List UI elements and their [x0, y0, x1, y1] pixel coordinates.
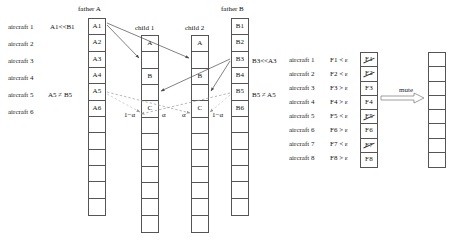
chromosome-cell — [142, 134, 158, 150]
child2-column: ABC — [191, 35, 209, 233]
mutation-condition-8: F8 > ε — [330, 155, 348, 162]
row-label-aircraft-6: aircraft 6 — [8, 109, 33, 116]
mutation-row-label-2: aircraft 2 — [289, 71, 314, 78]
mutation-block-arrow — [381, 93, 424, 103]
child2-header: child 2 — [185, 25, 204, 32]
chromosome-cell — [192, 85, 208, 101]
mutation-source-column: F1F2F3F4F5F6F7F8 — [360, 52, 378, 168]
mutation-cell: F6 — [361, 124, 377, 138]
chromosome-cell — [192, 216, 208, 232]
chromosome-cell — [232, 166, 248, 182]
row-label-aircraft-4: aircraft 4 — [8, 75, 33, 82]
father-b-column: B1B2B3B4B5B6 — [231, 18, 249, 216]
father-a-column: A1A2A3A4A5A6 — [88, 18, 106, 216]
mutation-condition-7: F7 < ε — [330, 141, 348, 148]
chromosome-cell — [429, 82, 445, 96]
mutation-cell-struck: F1 — [361, 53, 377, 67]
mutation-condition-4: F4 > ε — [330, 99, 348, 106]
mutation-condition-2: F2 < ε — [330, 71, 348, 78]
mutation-row-label-3: aircraft 3 — [289, 85, 314, 92]
chromosome-cell — [192, 199, 208, 215]
chromosome-cell: B1 — [232, 19, 248, 35]
alpha-label-child2-right: 1−α — [212, 112, 223, 119]
chromosome-cell: B6 — [232, 101, 248, 117]
chromosome-cell — [232, 133, 248, 149]
chromosome-cell — [192, 52, 208, 68]
mutation-condition-5: F5 < ε — [330, 113, 348, 120]
mutation-cell: F8 — [361, 153, 377, 167]
chromosome-cell — [142, 85, 158, 101]
chromosome-cell: A — [142, 36, 158, 52]
mutation-row-label-1: aircraft 1 — [289, 57, 314, 64]
child1-header: child 1 — [135, 25, 154, 32]
chromosome-cell — [232, 117, 248, 133]
chromosome-cell — [232, 150, 248, 166]
chromosome-cell: A1 — [89, 19, 105, 35]
chromosome-cell — [89, 182, 105, 198]
row-label-aircraft-1: aircraft 1 — [8, 24, 33, 31]
chromosome-cell — [89, 166, 105, 182]
chromosome-cell — [142, 183, 158, 199]
chromosome-cell — [142, 199, 158, 215]
father-b-annotation-b3: B3<<A3 — [252, 58, 277, 65]
chromosome-cell — [192, 134, 208, 150]
arrow-b5-to-child2-c — [210, 95, 230, 112]
chromosome-cell — [429, 67, 445, 81]
chromosome-cell — [89, 117, 105, 133]
father-a-annotation-a1: A1<<B1 — [50, 24, 75, 31]
chromosome-cell — [192, 118, 208, 134]
mutation-cell-struck: F5 — [361, 110, 377, 124]
chromosome-cell: A4 — [89, 68, 105, 84]
mutation-row-label-7: aircraft 7 — [289, 141, 314, 148]
father-b-header: father B — [221, 6, 244, 13]
mutation-cell-struck: F7 — [361, 139, 377, 153]
chromosome-cell: B4 — [232, 68, 248, 84]
chromosome-cell — [232, 182, 248, 198]
figure-canvas: father A child 1 child 2 father B aircra… — [0, 0, 453, 244]
mutation-cell-struck: F2 — [361, 67, 377, 81]
chromosome-cell: B — [192, 69, 208, 85]
row-label-aircraft-2: aircraft 2 — [8, 41, 33, 48]
mutation-row-label-4: aircraft 4 — [289, 99, 314, 106]
mutation-row-label-6: aircraft 6 — [289, 127, 314, 134]
mutation-result-column — [428, 52, 446, 168]
chromosome-cell: A — [192, 36, 208, 52]
chromosome-cell: C — [192, 101, 208, 117]
chromosome-cell — [192, 150, 208, 166]
mutation-row-label-5: aircraft 5 — [289, 113, 314, 120]
chromosome-cell: A5 — [89, 84, 105, 100]
chromosome-cell: A2 — [89, 35, 105, 51]
chromosome-cell — [192, 183, 208, 199]
mutation-condition-3: F3 > ε — [330, 85, 348, 92]
chromosome-cell — [142, 150, 158, 166]
alpha-label-child1-right: α — [162, 112, 166, 119]
alpha-label-child1-left: 1−α — [124, 112, 135, 119]
mutation-condition-1: F1 < ε — [330, 57, 348, 64]
mutation-arrow-label: mute — [399, 86, 413, 94]
chromosome-cell — [89, 199, 105, 215]
chromosome-cell — [429, 96, 445, 110]
chromosome-cell — [89, 150, 105, 166]
chromosome-cell — [142, 167, 158, 183]
chromosome-cell: C — [142, 101, 158, 117]
father-b-annotation-b5: B5 ≠ A5 — [252, 92, 276, 99]
chromosome-cell — [142, 52, 158, 68]
mutation-row-label-8: aircraft 8 — [289, 155, 314, 162]
mutation-condition-6: F6 > ε — [330, 127, 348, 134]
chromosome-cell — [429, 53, 445, 67]
chromosome-cell — [429, 153, 445, 167]
chromosome-cell — [142, 216, 158, 232]
chromosome-cell — [429, 139, 445, 153]
mutation-cell: F4 — [361, 96, 377, 110]
chromosome-cell: B — [142, 69, 158, 85]
chromosome-cell: B5 — [232, 84, 248, 100]
chromosome-cell: B3 — [232, 52, 248, 68]
arrow-a5-to-child1-c — [107, 94, 140, 112]
row-label-aircraft-3: aircraft 3 — [8, 58, 33, 65]
father-a-header: father A — [78, 6, 101, 13]
mutation-cell: F3 — [361, 82, 377, 96]
chromosome-cell: A6 — [89, 101, 105, 117]
chromosome-cell: A3 — [89, 52, 105, 68]
chromosome-cell — [89, 133, 105, 149]
arrows-overlay — [0, 0, 453, 244]
